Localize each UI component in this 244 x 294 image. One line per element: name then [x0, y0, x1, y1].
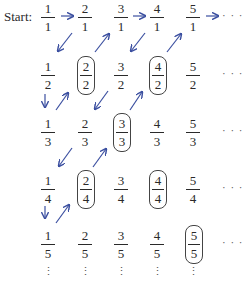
arrow-down-left-icon [59, 148, 72, 166]
path-arrows [0, 0, 244, 294]
arrow-down-left-icon [131, 33, 145, 51]
arrow-up-right-icon [167, 34, 181, 52]
arrow-up-right-icon [93, 149, 106, 167]
arrow-up-right-icon [95, 34, 109, 52]
arrow-up-right-icon [130, 92, 142, 110]
arrow-down-left-icon [95, 91, 108, 109]
arrow-down-left-icon [58, 33, 72, 51]
arrow-up-right-icon [56, 93, 68, 110]
arrow-up-right-icon [56, 205, 69, 223]
